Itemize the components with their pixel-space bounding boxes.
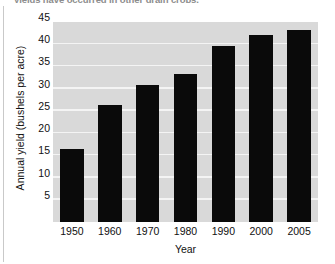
y-tick-label: 40 [22, 34, 50, 44]
bar [98, 105, 121, 222]
bar [60, 149, 83, 222]
y-tick-label: 5 [22, 190, 50, 200]
bar-chart-figure: Annual yield (bushels per acre) 51015202… [0, 0, 335, 264]
bar-series [53, 22, 318, 222]
x-tick-label: 2000 [250, 225, 273, 237]
bar [174, 74, 197, 222]
y-tick-label: 30 [22, 79, 50, 89]
bar [212, 46, 235, 222]
x-tick-label: 1950 [60, 225, 83, 237]
y-tick-label: 15 [22, 145, 50, 155]
bar [136, 85, 159, 222]
x-tick-label: 1980 [174, 225, 197, 237]
bar [249, 35, 272, 222]
y-tick-label: 20 [22, 123, 50, 133]
y-tick-label: 35 [22, 56, 50, 66]
bar [287, 30, 310, 222]
x-tick-label: 1990 [212, 225, 235, 237]
y-tick-label: 25 [22, 101, 50, 111]
y-axis-tick-labels: 51015202530354045 [22, 17, 50, 223]
y-tick-label: 45 [22, 12, 50, 22]
x-axis-tick-labels: 1950196019701980199020002005 [53, 225, 318, 239]
x-tick-label: 1960 [98, 225, 121, 237]
x-axis-title: Year [53, 243, 318, 255]
y-tick-label: 10 [22, 168, 50, 178]
x-tick-label: 1970 [136, 225, 159, 237]
x-tick-label: 2005 [287, 225, 310, 237]
plot-area [53, 22, 318, 222]
